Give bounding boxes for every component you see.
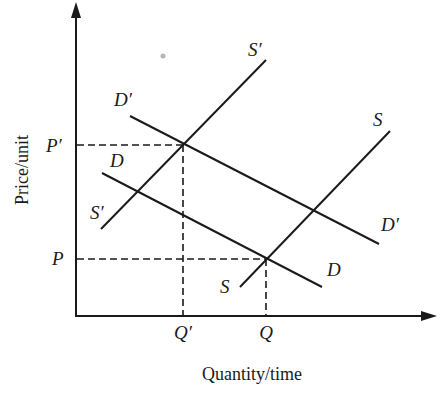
x-axis-title: Quantity/time bbox=[202, 364, 302, 384]
price-label-p: P bbox=[51, 248, 64, 269]
price-label-p-prime: P′ bbox=[45, 135, 63, 156]
scan-artifact-dot bbox=[161, 54, 166, 59]
label-d-prime-right: D′ bbox=[380, 214, 400, 235]
label-d-left: D bbox=[109, 150, 124, 171]
label-s-prime-bottom: S′ bbox=[90, 202, 105, 223]
supply-demand-diagram: D′ D S′ S′ S D′ D S P′ P Q′ Q Quantity/t… bbox=[0, 0, 441, 394]
label-s-prime-top: S′ bbox=[248, 39, 263, 60]
label-d-right: D bbox=[326, 259, 341, 280]
demand-curve-d bbox=[102, 173, 322, 287]
y-axis-title: Price/unit bbox=[12, 135, 32, 205]
x-axis-arrow-icon bbox=[421, 311, 437, 321]
label-s-top: S bbox=[373, 109, 383, 130]
supply-curve-s bbox=[240, 131, 390, 287]
quantity-label-q: Q bbox=[259, 322, 273, 343]
axis-tick-labels: P′ P Q′ Q bbox=[45, 135, 273, 343]
quantity-label-q-prime: Q′ bbox=[174, 322, 193, 343]
y-axis-arrow-icon bbox=[71, 2, 81, 18]
label-s-bottom: S bbox=[220, 276, 230, 297]
label-d-prime-left: D′ bbox=[113, 89, 133, 110]
curves bbox=[101, 60, 390, 287]
